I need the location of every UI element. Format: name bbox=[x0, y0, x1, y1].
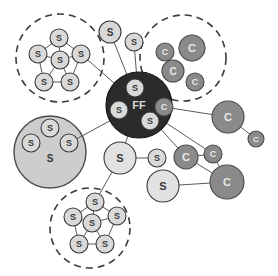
node-tl-s-br-circle[interactable] bbox=[61, 73, 79, 91]
node-hub-c-right-circle[interactable] bbox=[155, 98, 173, 116]
node-tl-s-top[interactable]: S bbox=[50, 29, 68, 47]
node-s-mid-right-circle[interactable] bbox=[148, 149, 166, 167]
node-br-c-small-circle[interactable] bbox=[204, 145, 222, 163]
node-tr-c-low-circle[interactable] bbox=[186, 73, 204, 91]
node-tl-s-bl[interactable]: S bbox=[35, 73, 53, 91]
node-r-c-big[interactable]: C bbox=[212, 101, 244, 133]
node-s-mid[interactable]: S bbox=[104, 142, 136, 174]
node-br-c-small[interactable]: C bbox=[204, 145, 222, 163]
node-tr-c-left[interactable]: C bbox=[156, 43, 174, 61]
node-s-top-b[interactable]: S bbox=[125, 33, 143, 51]
node-tl-s-bl-circle[interactable] bbox=[35, 73, 53, 91]
node-bc-s-center-circle[interactable] bbox=[83, 214, 101, 232]
node-lg-s-right-circle[interactable] bbox=[60, 134, 78, 152]
node-s-mid-circle[interactable] bbox=[104, 142, 136, 174]
node-tl-s-left-circle[interactable] bbox=[29, 45, 47, 63]
node-bc-s-top-circle[interactable] bbox=[86, 193, 104, 211]
node-tl-s-right[interactable]: S bbox=[72, 45, 90, 63]
graph-canvas: S FFSSSCSSSSSSSSSSSSSSSSSCCCCCCSSSCCC bbox=[0, 0, 278, 276]
node-tr-c-mid-circle[interactable] bbox=[162, 60, 184, 82]
node-tr-c-mid[interactable]: C bbox=[162, 60, 184, 82]
node-bc-s-bl-circle[interactable] bbox=[70, 235, 88, 253]
node-r-c-big-circle[interactable] bbox=[212, 101, 244, 133]
node-s-top-a-circle[interactable] bbox=[99, 21, 121, 43]
node-tr-c-big-circle[interactable] bbox=[179, 35, 205, 61]
node-tl-s-center[interactable]: S bbox=[51, 51, 69, 69]
node-tl-s-left[interactable]: S bbox=[29, 45, 47, 63]
node-bc-s-bl[interactable]: S bbox=[70, 235, 88, 253]
node-bc-s-left-circle[interactable] bbox=[64, 208, 82, 226]
node-bc-s-br-circle[interactable] bbox=[96, 235, 114, 253]
node-s-low[interactable]: S bbox=[147, 170, 179, 202]
node-hub-s-bottom-circle[interactable] bbox=[141, 112, 159, 130]
node-hub-s-top[interactable]: S bbox=[126, 79, 144, 97]
node-hub-s-top-circle[interactable] bbox=[126, 79, 144, 97]
node-bc-s-center[interactable]: S bbox=[83, 214, 101, 232]
node-bc-s-left[interactable]: S bbox=[64, 208, 82, 226]
node-bc-s-top[interactable]: S bbox=[86, 193, 104, 211]
node-br-c-mid[interactable]: C bbox=[174, 145, 198, 169]
node-lg-s-top-circle[interactable] bbox=[41, 119, 59, 137]
node-lg-s-top[interactable]: S bbox=[41, 119, 59, 137]
node-bc-s-right-circle[interactable] bbox=[108, 207, 126, 225]
node-hub-c-right[interactable]: C bbox=[155, 98, 173, 116]
node-tr-c-left-circle[interactable] bbox=[156, 43, 174, 61]
node-r-c-small[interactable]: C bbox=[248, 131, 264, 147]
node-hub-s-left-circle[interactable] bbox=[110, 101, 128, 119]
node-s-mid-right[interactable]: S bbox=[148, 149, 166, 167]
node-hub-s-bottom[interactable]: S bbox=[141, 112, 159, 130]
node-tl-s-top-circle[interactable] bbox=[50, 29, 68, 47]
node-lg-s-left-circle[interactable] bbox=[22, 134, 40, 152]
node-tl-s-right-circle[interactable] bbox=[72, 45, 90, 63]
node-bc-s-right[interactable]: S bbox=[108, 207, 126, 225]
node-s-top-b-circle[interactable] bbox=[125, 33, 143, 51]
network-diagram: S FFSSSCSSSSSSSSSSSSSSSSSCCCCCCSSSCCC bbox=[0, 0, 278, 276]
node-tr-c-big[interactable]: C bbox=[179, 35, 205, 61]
node-tl-s-br[interactable]: S bbox=[61, 73, 79, 91]
node-r-c-small-circle[interactable] bbox=[248, 131, 264, 147]
node-tr-c-low[interactable]: C bbox=[186, 73, 204, 91]
node-s-top-a[interactable]: S bbox=[99, 21, 121, 43]
node-bc-s-br[interactable]: S bbox=[96, 235, 114, 253]
node-br-c-big-circle[interactable] bbox=[210, 165, 244, 199]
node-lg-s-right[interactable]: S bbox=[60, 134, 78, 152]
node-br-c-mid-circle[interactable] bbox=[174, 145, 198, 169]
node-tl-s-center-circle[interactable] bbox=[51, 51, 69, 69]
node-s-low-circle[interactable] bbox=[147, 170, 179, 202]
node-br-c-big[interactable]: C bbox=[210, 165, 244, 199]
node-hub-s-left[interactable]: S bbox=[110, 101, 128, 119]
node-lg-s-left[interactable]: S bbox=[22, 134, 40, 152]
